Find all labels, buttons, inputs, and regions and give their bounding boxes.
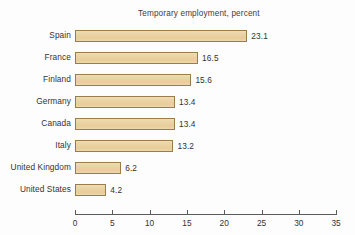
x-tick-label-35: 35 (331, 218, 340, 228)
bar-spain (75, 30, 247, 42)
x-axis-line (75, 214, 337, 215)
bar-canada (75, 118, 175, 130)
x-tick-0 (75, 210, 76, 215)
value-label-finland: 15.6 (195, 74, 212, 86)
x-tick-30 (299, 210, 300, 215)
x-tick-label-5: 5 (110, 218, 115, 228)
x-tick-35 (336, 210, 337, 215)
bar-row: United Kingdom6.2 (0, 160, 355, 175)
bar-united-kingdom (75, 162, 121, 174)
bar-united-states (75, 184, 106, 196)
x-tick-label-0: 0 (73, 218, 78, 228)
chart-title: Temporary employment, percent (138, 9, 260, 18)
bar-row: Germany13.4 (0, 94, 355, 109)
value-label-united-states: 4.2 (110, 184, 122, 196)
bar-chart: Temporary employment, percent Spain23.1F… (0, 0, 355, 235)
category-label-canada: Canada (0, 118, 71, 128)
bar-row: Canada13.4 (0, 116, 355, 131)
x-tick-25 (262, 210, 263, 215)
bar-germany (75, 96, 175, 108)
plot-area: Spain23.1France16.5Finland15.6Germany13.… (0, 28, 355, 208)
x-tick-15 (187, 210, 188, 215)
x-tick-label-15: 15 (182, 218, 191, 228)
x-tick-label-20: 20 (220, 218, 229, 228)
value-label-canada: 13.4 (179, 118, 196, 130)
category-label-united-states: United States (0, 184, 71, 194)
x-tick-label-10: 10 (145, 218, 154, 228)
category-label-united-kingdom: United Kingdom (0, 162, 71, 172)
category-label-france: France (0, 52, 71, 62)
x-axis: 05101520253035 (0, 210, 355, 235)
value-label-united-kingdom: 6.2 (125, 162, 137, 174)
x-tick-10 (150, 210, 151, 215)
bar-row: United States4.2 (0, 182, 355, 197)
bar-italy (75, 140, 173, 152)
category-label-germany: Germany (0, 96, 71, 106)
value-label-france: 16.5 (202, 52, 219, 64)
x-tick-label-30: 30 (294, 218, 303, 228)
x-tick-5 (112, 210, 113, 215)
category-label-italy: Italy (0, 140, 71, 150)
bar-finland (75, 74, 191, 86)
value-label-germany: 13.4 (179, 96, 196, 108)
bar-row: Finland15.6 (0, 72, 355, 87)
value-label-spain: 23.1 (251, 30, 268, 42)
bar-row: Italy13.2 (0, 138, 355, 153)
x-tick-20 (224, 210, 225, 215)
category-label-finland: Finland (0, 74, 71, 84)
bar-france (75, 52, 198, 64)
category-label-spain: Spain (0, 30, 71, 40)
x-tick-label-25: 25 (257, 218, 266, 228)
bar-row: Spain23.1 (0, 28, 355, 43)
value-label-italy: 13.2 (177, 140, 194, 152)
bar-row: France16.5 (0, 50, 355, 65)
